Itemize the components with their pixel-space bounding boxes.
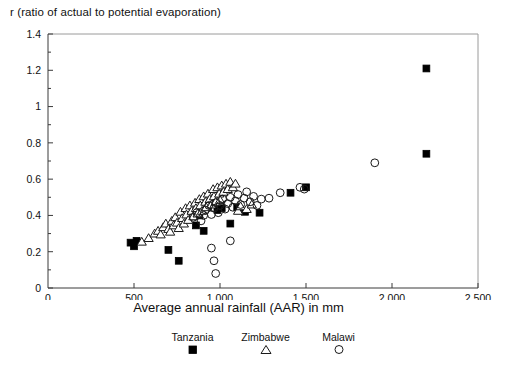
legend-marker-malawi [333, 344, 345, 355]
y-tick-label: 0 [35, 282, 41, 294]
data-point [257, 195, 265, 203]
chart-legend: Tanzania Zimbabwe Malawi [0, 331, 517, 355]
data-point [227, 220, 234, 227]
y-tick-label: 1.4 [26, 28, 41, 40]
series-malawi [189, 159, 378, 277]
x-tick-label: 1,000 [207, 292, 233, 300]
data-point [287, 189, 294, 196]
legend-item-malawi: Malawi [304, 331, 374, 355]
y-tick-label: 1.2 [26, 64, 41, 76]
data-point [212, 270, 220, 278]
x-axis-ticks: 05001,0001,5002,0002,500 [45, 283, 491, 300]
data-point [247, 200, 256, 208]
data-point [208, 244, 216, 252]
data-point [210, 257, 218, 265]
legend-marker-tanzania [187, 344, 199, 355]
data-point [165, 247, 172, 254]
open-triangle-icon [259, 344, 273, 355]
x-tick-label: 1,500 [293, 292, 319, 300]
y-axis-ticks: 00.20.40.60.811.21.4 [26, 28, 53, 294]
data-point [265, 194, 273, 202]
plot-frame [48, 34, 478, 288]
data-point [276, 189, 284, 197]
data-point [226, 237, 234, 245]
x-tick-label: 2,000 [379, 292, 405, 300]
data-point [175, 257, 182, 264]
y-tick-label: 0.2 [26, 246, 41, 258]
series-zimbabwe [137, 177, 256, 245]
data-point [423, 150, 430, 157]
scatter-chart: r (ratio of actual to potential evaporat… [0, 0, 517, 367]
data-point [200, 227, 207, 234]
axis-lines [48, 34, 478, 288]
x-tick-label: 2,500 [465, 292, 491, 300]
legend-item-zimbabwe: Zimbabwe [231, 331, 301, 355]
y-tick-label: 1 [35, 100, 41, 112]
y-tick-label: 0.6 [26, 173, 41, 185]
legend-label-zimbabwe: Zimbabwe [241, 331, 289, 343]
data-point [371, 159, 379, 167]
data-point [423, 65, 430, 72]
plot-area: 00.20.40.60.811.21.4 05001,0001,5002,000… [0, 0, 517, 300]
x-axis-title: Average annual rainfall (AAR) in mm [0, 300, 517, 315]
data-points-layer [127, 65, 430, 277]
open-circle-icon [333, 344, 345, 355]
x-tick-label: 0 [45, 292, 51, 300]
legend-marker-zimbabwe [259, 344, 273, 355]
filled-square-icon [187, 344, 199, 355]
legend-label-malawi: Malawi [322, 331, 355, 343]
y-tick-label: 0.8 [26, 137, 41, 149]
legend-item-tanzania: Tanzania [158, 331, 228, 355]
y-tick-label: 0.4 [26, 209, 41, 221]
x-axis-title-text: Average annual rainfall (AAR) in mm [133, 300, 344, 315]
legend-label-tanzania: Tanzania [171, 331, 213, 343]
data-point [256, 209, 263, 216]
x-tick-label: 500 [125, 292, 143, 300]
data-point [243, 188, 251, 196]
